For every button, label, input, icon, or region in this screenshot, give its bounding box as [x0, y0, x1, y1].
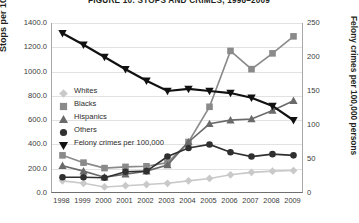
- y-axis-right-tick: 250: [307, 18, 333, 27]
- y-axis-right-label: Felony crimes per 100,000 persons: [349, 16, 359, 155]
- chart-legend: WhitesBlacksHispanicsOthersFelony crimes…: [57, 84, 164, 149]
- data-point: [289, 97, 297, 104]
- data-point: [248, 168, 256, 176]
- legend-label: Whites: [74, 86, 97, 95]
- legend-label: Blacks: [74, 99, 96, 108]
- data-point: [206, 103, 213, 110]
- y-axis-right-tick: 100: [307, 120, 333, 129]
- circle-marker: [57, 124, 70, 135]
- data-point: [269, 167, 277, 175]
- y-axis-left-tick: 600.0: [3, 115, 47, 124]
- data-point: [289, 117, 297, 125]
- data-point: [143, 181, 151, 189]
- data-point: [122, 168, 129, 175]
- data-point: [269, 50, 276, 57]
- data-point: [290, 167, 298, 175]
- y-axis-left-tick: 0.0: [3, 188, 47, 197]
- data-point: [164, 153, 171, 160]
- legend-item: Hispanics: [57, 110, 164, 123]
- inverted-triangle-marker: [57, 137, 70, 148]
- square-marker: [57, 98, 70, 109]
- data-point: [206, 175, 214, 183]
- legend-label: Hispanics: [74, 112, 107, 121]
- data-point: [59, 152, 66, 159]
- data-point: [185, 177, 193, 185]
- data-point: [164, 179, 172, 187]
- y-axis-right-tick: 50: [307, 154, 333, 163]
- legend-item: Blacks: [57, 97, 164, 110]
- diamond-marker: [57, 85, 70, 96]
- y-axis-left-tick: 200.0: [3, 164, 47, 173]
- figure-title: FIGURE 10: STOPS AND CRIMES, 1998–2009: [0, 0, 358, 7]
- data-point: [101, 165, 108, 172]
- data-point: [80, 179, 88, 187]
- legend-item: Whites: [57, 84, 164, 97]
- data-point: [101, 175, 108, 182]
- series-whites: [59, 167, 298, 191]
- data-point: [58, 162, 66, 169]
- data-point: [269, 151, 276, 158]
- y-axis-left-tick: 800.0: [3, 91, 47, 100]
- legend-item: Felony crimes per 100,000: [57, 136, 164, 149]
- data-point: [59, 174, 66, 181]
- y-axis-left-tick: 400.0: [3, 139, 47, 148]
- y-axis-right-tick: 200: [307, 52, 333, 61]
- data-point: [248, 153, 255, 160]
- data-point: [101, 183, 109, 191]
- data-point: [122, 182, 130, 190]
- y-axis-right-tick: 150: [307, 86, 333, 95]
- data-point: [206, 141, 213, 148]
- data-point: [290, 152, 297, 159]
- data-point: [290, 33, 297, 40]
- data-point: [227, 149, 234, 156]
- y-axis-left-tick: 1200.0: [3, 42, 47, 51]
- x-axis-tick: 2009: [278, 196, 308, 205]
- y-axis-left-tick: 1000.0: [3, 67, 47, 76]
- y-axis-left-tick: 1400.0: [3, 18, 47, 27]
- data-point: [143, 168, 150, 175]
- data-point: [227, 171, 235, 179]
- data-point: [80, 174, 87, 181]
- data-point: [227, 48, 234, 55]
- data-point: [80, 159, 87, 166]
- data-point: [248, 66, 255, 73]
- triangle-marker: [57, 111, 70, 122]
- legend-item: Others: [57, 123, 164, 136]
- y-axis-right-tick: 0: [307, 188, 333, 197]
- legend-label: Felony crimes per 100,000: [74, 138, 164, 147]
- data-point: [185, 145, 192, 152]
- legend-label: Others: [74, 125, 97, 134]
